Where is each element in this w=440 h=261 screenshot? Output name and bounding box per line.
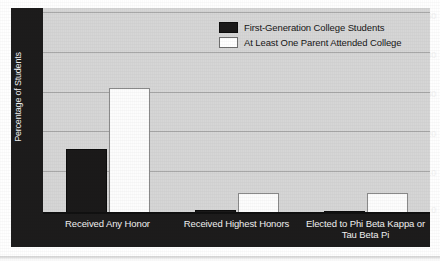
- bar-elected-phi-beta-kappa-parent-attended: [367, 193, 408, 213]
- bar-received-any-honor-parent-attended: [109, 88, 150, 213]
- legend-label-parent-attended: At Least One Parent Attended College: [244, 37, 401, 48]
- legend-label-first-generation: First-Generation College Students: [244, 22, 384, 33]
- legend-swatch-light-icon: [219, 37, 238, 48]
- gridline-20: [43, 131, 430, 132]
- x-category-label-received-any-honor: Received Any Honor: [43, 218, 172, 229]
- x-category-line-1: Elected to Phi Beta Kappa or: [301, 218, 430, 229]
- legend-item-parent-attended: At Least One Parent Attended College: [219, 36, 401, 48]
- bar-received-any-honor-first-generation: [66, 149, 107, 213]
- x-axis-baseline: [43, 212, 430, 214]
- gridline-30: [43, 92, 430, 93]
- y-axis-title: Percentage of Students: [13, 17, 23, 177]
- x-category-line-2: Tau Beta Pi: [301, 229, 430, 240]
- x-category-line-1: Received Highest Honors: [172, 218, 301, 229]
- gridline-50: [43, 12, 430, 13]
- gridline-40: [43, 52, 430, 53]
- page-edge-artifact: [0, 256, 440, 260]
- x-category-label-received-highest-honors: Received Highest Honors: [172, 218, 301, 229]
- chart-legend: First-Generation College Students At Lea…: [219, 21, 401, 48]
- bar-chart-figure: Percentage of Students 50 40 30 20 10 0 …: [0, 0, 440, 261]
- x-category-line-1: Received Any Honor: [43, 218, 172, 229]
- bar-received-highest-honors-parent-attended: [238, 193, 279, 213]
- legend-swatch-dark-icon: [219, 22, 238, 33]
- plot-area: First-Generation College Students At Lea…: [43, 8, 430, 213]
- y-tick-label-0: 0: [431, 206, 436, 215]
- x-category-label-elected-phi-beta-kappa: Elected to Phi Beta Kappa or Tau Beta Pi: [301, 218, 430, 240]
- legend-item-first-generation: First-Generation College Students: [219, 21, 401, 33]
